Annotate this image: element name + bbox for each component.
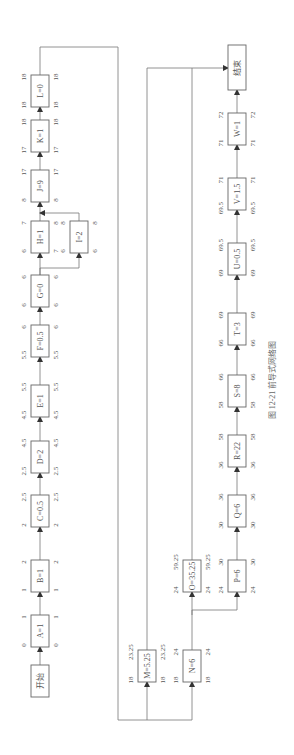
late-finish: 6	[52, 325, 60, 329]
late-start: 24	[249, 586, 257, 594]
early-start: 58	[217, 401, 225, 409]
activity-label: T=3	[233, 322, 242, 335]
late-start: 69	[249, 269, 257, 277]
late-finish: 72	[249, 111, 257, 119]
early-finish: 72	[217, 111, 225, 119]
early-finish: 4.5	[20, 438, 28, 447]
late-finish: 69	[249, 311, 257, 319]
early-finish: 59.25	[172, 554, 180, 570]
late-start: 0	[52, 643, 60, 647]
activity-label: R=22	[233, 442, 242, 460]
late-finish: 58	[249, 433, 257, 441]
activity-label: E=1	[36, 394, 45, 407]
late-finish: 36	[249, 493, 257, 501]
edge-line	[40, 213, 79, 221]
late-start: 66	[249, 339, 257, 347]
activity-label: Q=6	[233, 504, 242, 518]
early-start: 2	[20, 523, 28, 527]
early-start: 0	[20, 643, 28, 647]
edge-line	[40, 47, 192, 720]
node-layer: 开始A=10101B=11212C=0.522.522.5D=22.54.52.…	[20, 45, 257, 697]
activity-label: W=1	[233, 121, 242, 137]
early-finish: 69.5	[217, 238, 225, 251]
late-finish: 5.5	[52, 382, 60, 391]
late-finish: 71	[249, 176, 257, 184]
early-start: 69.5	[217, 201, 225, 214]
early-finish: 2.5	[20, 492, 28, 501]
late-start: 18	[52, 101, 60, 109]
activity-label: V=1.5	[233, 184, 242, 204]
late-finish: 8	[91, 221, 99, 225]
start-label: 开始	[35, 673, 45, 689]
early-start: 6	[20, 249, 28, 253]
late-finish: 24	[204, 648, 212, 656]
edge-layer	[40, 47, 237, 720]
early-finish: 5.5	[20, 382, 28, 391]
early-start: 24	[172, 586, 180, 594]
late-start: 30	[249, 521, 257, 529]
activity-label: O=35.25	[188, 562, 197, 590]
activity-label: L=0	[36, 84, 45, 97]
early-finish: 8	[59, 221, 67, 225]
edge-line	[192, 592, 237, 615]
caption-text: 图 12-21 前导式网络图	[267, 341, 277, 420]
early-start: 24	[217, 586, 225, 594]
early-start: 5.5	[20, 350, 28, 359]
late-start: 4.5	[52, 410, 60, 419]
late-finish: 1	[52, 615, 60, 619]
early-start: 18	[172, 676, 180, 684]
activity-label: F=0.5	[36, 332, 45, 351]
early-start: 69	[217, 269, 225, 277]
late-start: 18	[204, 676, 212, 684]
late-start: 24	[204, 586, 212, 594]
late-start: 6	[91, 249, 99, 253]
early-finish: 71	[217, 176, 225, 184]
early-start: 17	[20, 146, 28, 154]
activity-label: I=2	[75, 231, 84, 242]
early-finish: 58	[217, 433, 225, 441]
early-start: 4.5	[20, 410, 28, 419]
early-finish: 6	[20, 325, 28, 329]
activity-label: G=0	[36, 284, 45, 298]
early-start: 36	[217, 461, 225, 469]
early-finish: 1	[20, 615, 28, 619]
late-start: 5.5	[52, 350, 60, 359]
early-finish: 24	[172, 648, 180, 656]
activity-label: J=9	[36, 180, 45, 192]
early-start: 30	[217, 521, 225, 529]
activity-label: N=6	[188, 659, 197, 673]
activity-label: U=0.5	[233, 249, 242, 269]
early-finish: 2	[20, 560, 28, 564]
late-finish: 17	[52, 168, 60, 176]
early-start: 18	[20, 101, 28, 109]
late-start: 69.5	[249, 201, 257, 214]
late-finish: 2	[52, 560, 60, 564]
precedence-network-diagram: 开始A=10101B=11212C=0.522.522.5D=22.54.52.…	[0, 0, 294, 755]
early-start: 6	[59, 249, 67, 253]
late-start: 1	[52, 588, 60, 592]
late-finish: 23.25	[159, 644, 167, 660]
early-start: 1	[20, 588, 28, 592]
early-finish: 23.25	[127, 644, 135, 660]
early-finish: 6	[20, 275, 28, 279]
late-finish: 59.25	[204, 554, 212, 570]
late-start: 58	[249, 401, 257, 409]
early-finish: 36	[217, 493, 225, 501]
activity-label: P=6	[233, 570, 242, 583]
late-finish: 4.5	[52, 438, 60, 447]
early-finish: 18	[20, 118, 28, 126]
late-start: 8	[52, 198, 60, 202]
late-finish: 18	[52, 73, 60, 81]
early-finish: 66	[217, 373, 225, 381]
late-start: 18	[159, 676, 167, 684]
figure-caption: 图 12-21 前导式网络图	[267, 341, 277, 420]
early-start: 66	[217, 339, 225, 347]
early-finish: 17	[20, 168, 28, 176]
activity-label: S=8	[233, 385, 242, 398]
late-start: 71	[249, 139, 257, 147]
edge-line	[40, 253, 79, 275]
late-start: 17	[52, 146, 60, 154]
late-start: 2	[52, 523, 60, 527]
activity-label: B=1	[36, 569, 45, 583]
late-finish: 69.5	[249, 238, 257, 251]
